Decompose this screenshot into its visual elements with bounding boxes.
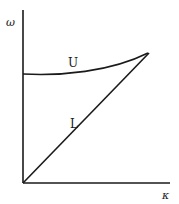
upper-branch-curve — [23, 53, 148, 74]
upper-branch-label: U — [68, 56, 78, 70]
y-axis-label: ω — [6, 16, 15, 29]
lower-branch-label: L — [70, 117, 78, 131]
lower-branch-line — [23, 53, 149, 183]
dispersion-diagram: ω κ U L — [0, 0, 179, 204]
x-axis-label: κ — [161, 189, 170, 202]
